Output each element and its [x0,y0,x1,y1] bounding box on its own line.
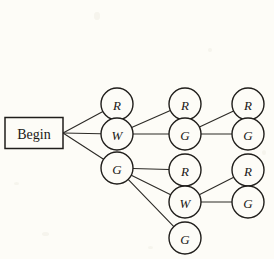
tree-node-label: R [112,98,121,113]
probability-tree-diagram: BeginRWGRGRWGRGRG [0,0,274,259]
tree-node-label: R [243,98,252,113]
tree-edge [132,110,171,127]
tree-edge [63,133,104,159]
tree-edge [131,175,170,195]
tree-edge [133,168,169,169]
tree-node-label: R [180,164,189,179]
edges-group [63,110,234,226]
begin-node-label: Begin [17,127,50,142]
tree-node-label: G [243,128,253,143]
tree-edge [63,133,101,134]
tree-node-label: W [112,128,124,143]
tree-node-label: R [180,98,189,113]
tree-node-label: G [180,232,190,247]
tree-node-label: G [112,162,122,177]
tree-node-label: G [180,128,190,143]
tree-node-label: R [243,164,252,179]
tree-edge [199,111,233,127]
tree-edge [199,177,233,195]
tree-edge [128,179,174,226]
tree-node-label: W [180,196,192,211]
tree-canvas: BeginRWGRGRWGRGRG [0,0,274,259]
nodes-group: BeginRWGRGRWGRGRG [5,88,264,254]
tree-node-label: G [243,196,253,211]
tree-edge [63,112,103,133]
